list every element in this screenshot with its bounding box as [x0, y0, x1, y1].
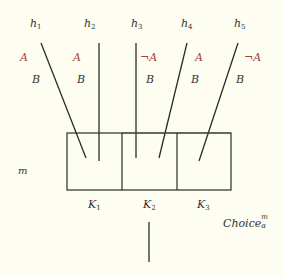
h3-label: h3: [131, 18, 143, 31]
k3-name: K: [197, 198, 205, 211]
h4-index: 4: [188, 23, 192, 31]
h4-label: h4: [181, 18, 193, 31]
h2-index: 2: [91, 23, 95, 31]
h5-line: [199, 43, 238, 161]
cell-k1-label: K1: [88, 199, 101, 212]
h1-literal-a: A: [20, 52, 28, 63]
box-m-label: m: [18, 166, 27, 176]
h2-label: h2: [84, 18, 96, 31]
cell-k3-label: K3: [197, 199, 210, 212]
h4-literal-a: A: [195, 52, 203, 63]
choice-subscript: α: [261, 223, 266, 230]
h2-literal-b: B: [77, 74, 85, 85]
h1-index: 1: [37, 23, 41, 31]
h5-label: h5: [234, 18, 246, 31]
h2-literal-a: A: [73, 52, 81, 63]
h1-literal-b: B: [32, 74, 40, 85]
h4-line: [159, 43, 187, 158]
h5-literal-neg-a: ¬A: [244, 52, 261, 63]
k3-index: 3: [205, 204, 209, 212]
k1-index: 1: [96, 204, 100, 212]
choice-name: Choice: [223, 217, 261, 230]
h3-index: 3: [138, 23, 142, 31]
h5-literal-b: B: [236, 74, 244, 85]
choice-scripts: mα: [261, 217, 267, 227]
choice-superscript: m: [261, 214, 268, 221]
h4-literal-b: B: [191, 74, 199, 85]
cell-k2-label: K2: [143, 199, 156, 212]
h3-literal-neg-a: ¬A: [140, 52, 157, 63]
h3-literal-b: B: [146, 74, 154, 85]
k2-index: 2: [151, 204, 155, 212]
h1-label: h1: [30, 18, 42, 31]
choice-label: Choicemα: [223, 217, 267, 229]
k2-name: K: [143, 198, 151, 211]
k1-name: K: [88, 198, 96, 211]
h5-index: 5: [241, 23, 245, 31]
diagram-canvas: [0, 0, 284, 277]
box-m: [67, 133, 231, 190]
